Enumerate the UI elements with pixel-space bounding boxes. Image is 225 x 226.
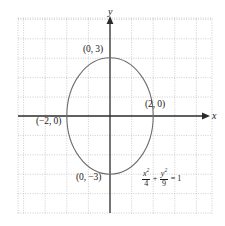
label-bottom-vertex: (0, −3): [76, 172, 101, 182]
ellipse-graph-figure: (0, 3) (2, 0) (−2, 0) (0, −3) y x x2 4 +…: [0, 0, 225, 226]
y-axis: [107, 16, 114, 213]
equation-right-side: 1: [177, 175, 181, 183]
label-top-vertex: (0, 3): [83, 44, 103, 54]
y-axis-label: y: [108, 6, 112, 17]
x-exponent: 2: [147, 167, 150, 173]
x-axis-label: x: [212, 110, 216, 121]
y-exponent: 2: [164, 167, 167, 173]
plot-canvas: [0, 0, 225, 226]
label-right-vertex: (2, 0): [145, 99, 165, 109]
plus-operator: +: [153, 175, 158, 183]
y-term-denominator: 9: [161, 180, 167, 189]
ellipse-equation: x2 4 + y2 9 = 1: [142, 170, 181, 188]
x-term-fraction: x2 4: [142, 170, 150, 188]
y-term-fraction: y2 9: [160, 170, 168, 188]
x-term-denominator: 4: [143, 180, 149, 189]
label-left-vertex: (−2, 0): [36, 116, 61, 126]
equals-sign: =: [171, 175, 176, 183]
